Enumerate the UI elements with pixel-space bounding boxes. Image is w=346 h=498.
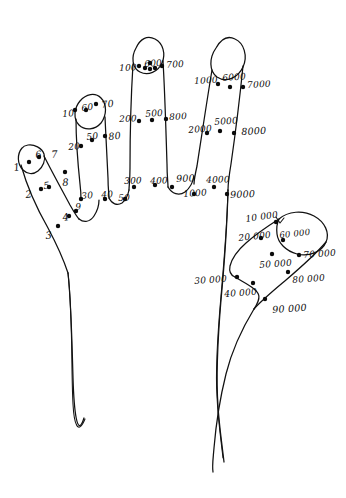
marker-dot <box>281 238 285 242</box>
marker-dot <box>241 85 245 89</box>
marker-dot <box>27 160 31 164</box>
wrist-left-contour <box>68 273 85 427</box>
marker-dot <box>103 134 107 138</box>
palm-left-outer-edge <box>68 273 84 426</box>
hand-outline-drawing <box>0 0 346 498</box>
marker-dot-layer <box>27 61 301 301</box>
marker-dot <box>286 270 290 274</box>
marker-dot <box>153 66 157 70</box>
marker-dot <box>123 197 127 201</box>
marker-dot <box>225 192 229 196</box>
marker-dot <box>148 61 152 65</box>
marker-dot <box>251 281 255 285</box>
marker-dot <box>103 197 107 201</box>
ring-finger-tip-outline <box>75 94 106 128</box>
ring-finger-left-edge <box>76 119 81 200</box>
marker-dot <box>153 183 157 187</box>
valley-pinky-ring <box>79 200 99 221</box>
marker-dot <box>263 297 267 301</box>
marker-dot <box>63 170 67 174</box>
marker-dot <box>56 224 60 228</box>
marker-dot <box>74 209 78 213</box>
middle-finger-left-edge <box>129 64 133 190</box>
marker-dot <box>164 117 168 121</box>
index-finger-right-edge <box>228 66 243 190</box>
marker-dot <box>235 275 239 279</box>
marker-dot <box>274 220 278 224</box>
marker-dot <box>150 118 154 122</box>
marker-dot <box>39 187 43 191</box>
marker-dot <box>84 108 88 112</box>
marker-dot <box>94 102 98 106</box>
thumb-upper-edge <box>230 219 279 277</box>
marker-dot <box>79 144 83 148</box>
ring-finger-right-edge <box>105 117 109 198</box>
marker-dot <box>67 214 71 218</box>
marker-dot <box>47 185 51 189</box>
index-finger-tip-outline <box>211 37 245 79</box>
marker-dot <box>137 64 141 68</box>
marker-dot <box>160 64 164 68</box>
marker-dot <box>232 131 236 135</box>
marker-dot <box>216 82 220 86</box>
hand-counting-diagram: 1672583491060702050803040100600700200500… <box>0 0 346 498</box>
marker-dot <box>170 185 174 189</box>
marker-dot <box>73 108 77 112</box>
marker-dot <box>259 236 263 240</box>
right-hand-outer-contour <box>216 190 228 458</box>
marker-dot <box>192 192 196 196</box>
marker-dot <box>212 185 216 189</box>
marker-dot <box>218 129 222 133</box>
thumb-web-contour <box>235 277 259 309</box>
middle-finger-right-edge <box>163 61 168 187</box>
marker-dot <box>205 131 209 135</box>
marker-dot <box>148 67 152 71</box>
index-finger-left-edge <box>194 70 212 184</box>
marker-dot <box>228 85 232 89</box>
marker-dot <box>132 185 136 189</box>
marker-dot <box>90 138 94 142</box>
marker-dot <box>137 119 141 123</box>
marker-dot <box>79 197 83 201</box>
marker-dot <box>270 252 274 256</box>
marker-dot <box>297 253 301 257</box>
marker-dot <box>37 155 41 159</box>
marker-dot <box>143 66 147 70</box>
pinky-left-edge <box>21 165 68 273</box>
